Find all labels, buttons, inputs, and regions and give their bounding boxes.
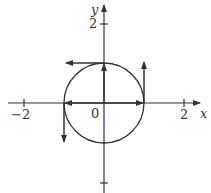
y-tick-label-2: 2 <box>89 16 97 31</box>
y-axis-label: y <box>90 2 99 17</box>
x-axis-label: x <box>200 106 208 121</box>
origin-label: 0 <box>91 106 99 121</box>
x-tick-label-2: 2 <box>180 107 188 122</box>
diagram-canvas: y 2 x −2 2 0 <box>0 0 211 193</box>
x-tick-label-neg2: −2 <box>11 107 30 122</box>
position-vectors <box>65 64 143 103</box>
